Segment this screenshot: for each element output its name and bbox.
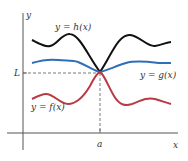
- a-label: a: [97, 139, 102, 149]
- x-axis-label: x: [173, 140, 178, 150]
- curve-h: [32, 34, 171, 72]
- diagram-canvas: y x a L y = h(x) y = g(x) y = f(x): [0, 0, 188, 161]
- squeeze-theorem-figure: y x a L y = h(x) y = g(x) y = f(x): [0, 0, 188, 161]
- h-label: y = h(x): [54, 22, 92, 32]
- g-label: y = g(x): [139, 70, 177, 80]
- l-label: L: [13, 68, 20, 78]
- f-label: y = f(x): [30, 102, 65, 112]
- y-axis-label: y: [25, 10, 32, 20]
